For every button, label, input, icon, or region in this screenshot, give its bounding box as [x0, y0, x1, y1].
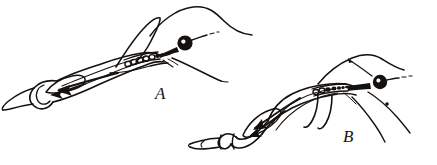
panel-b-bead [332, 86, 337, 90]
engraving-illustration [0, 0, 437, 165]
panel-b-bead [341, 86, 344, 89]
panel-b-bead [325, 87, 330, 92]
panel-a-bead [155, 54, 160, 58]
panel-label-b: B [343, 128, 354, 145]
panel-b-head-bulb [373, 75, 387, 89]
panel-a-drawing [2, 7, 252, 110]
panel-b-trailing-filament-lower [352, 97, 385, 142]
panel-a-ventral-filament-tip [221, 81, 228, 82]
panel-a-ventral-filament [172, 58, 221, 81]
panel-b-segment-divider [233, 134, 235, 149]
panel-b-tail-tip-close [189, 144, 191, 147]
panel-b-head-bulb-highlight [376, 79, 380, 83]
panel-b-head-seta-upper [349, 60, 372, 76]
panel-b-tail-tip-upper [190, 138, 220, 144]
panel-a-head-antenna-dash [210, 33, 214, 34]
figure-canvas: A B [0, 0, 437, 165]
panel-b-filament-node [385, 102, 389, 106]
panel-b-cavity-arrow-shaft [262, 111, 285, 128]
panel-b-ventral-hook-2 [318, 95, 332, 129]
panel-a-cavity-arrow [50, 90, 63, 99]
panel-a-bead [143, 56, 149, 61]
panel-label-a: A [155, 85, 166, 102]
panel-a-neck [159, 47, 179, 58]
panel-b-neck [347, 83, 371, 91]
panel-a-dorsal-filament [150, 7, 252, 36]
panel-b-tail-notch [201, 141, 204, 147]
panel-b-internal-duct-1 [272, 89, 334, 124]
panel-a-tail-inner-loop [36, 85, 50, 104]
panel-a-head-bulb [177, 35, 192, 50]
panel-b-drawing [189, 55, 413, 149]
panel-b-bead [337, 86, 341, 90]
panel-b-head-antenna [387, 78, 399, 80]
panel-a-head-antenna [192, 35, 207, 40]
panel-a-tail-tip-close [2, 107, 3, 110]
panel-b-trailing-filament-upper [368, 92, 410, 133]
panel-b-tail-tip-lower [190, 147, 220, 149]
panel-a-head-bulb-highlight [181, 40, 185, 44]
panel-a-bead [149, 55, 155, 60]
panel-a-tail-tip-lower [3, 104, 33, 110]
